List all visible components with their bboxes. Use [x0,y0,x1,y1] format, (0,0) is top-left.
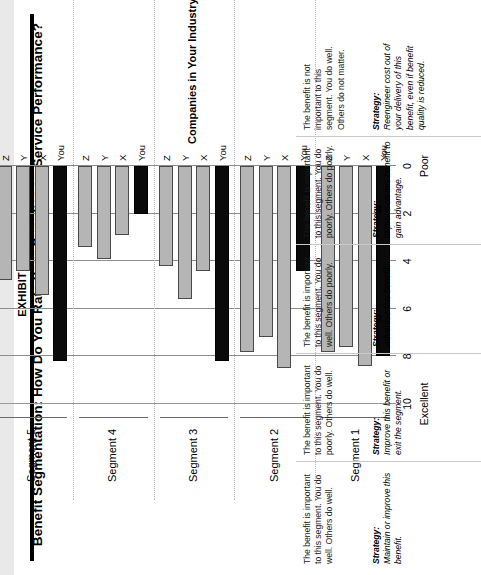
note-description-text: The benefit is important to this segment… [302,250,336,347]
note-description-text: The benefit is not important to this seg… [302,33,347,130]
note-description-text: The benefit is important to this segment… [302,359,336,456]
strategy-text: Reengineer cost out of your delivery of … [382,33,427,130]
strategy-label: Strategy: [371,418,381,455]
segment-note-strategy: Strategy:Improve this benefit or exit th… [362,359,405,456]
strategy-label: Strategy: [371,201,381,238]
note-separator [296,461,481,462]
note-separator [296,244,481,245]
segment-note-description: The benefit is important to this segment… [302,467,336,564]
strategy-text: Improve on this benefit to gain advantag… [382,142,404,239]
segment-note-description: The benefit is important to this segment… [302,359,336,456]
segment-note-strategy: Strategy:Reengineer cost out of your del… [362,33,427,130]
note-description-text: The benefit is important to this segment… [302,467,336,564]
segment-note-description: The benefit is not important to this seg… [302,33,347,130]
note-separator [296,353,481,354]
strategy-label: Strategy: [371,526,381,563]
strategy-label: Strategy: [371,309,381,346]
segment-note-description: The benefit is important to this segment… [302,250,336,347]
strategy-text: Maintain or improve this benefit. [382,467,404,564]
page-frame: EXHIBIT 8-4 Benefit Segmentation: How Do… [0,0,481,575]
note-separator [296,136,481,137]
segment-note-description: The benefit is important to this segment… [302,142,336,239]
segment-note-strategy: Strategy:Maintain or improve this benefi… [362,467,405,564]
strategy-label: Strategy: [371,92,381,129]
segment-notes-layer: The benefit is not important to this seg… [0,0,481,575]
segment-note-strategy: Strategy:Advertise this benefit. [362,250,393,347]
segment-note-strategy: Strategy:Improve on this benefit to gain… [362,142,405,239]
strategy-text: Advertise this benefit. [382,250,393,347]
note-description-text: The benefit is important to this segment… [302,142,336,239]
strategy-text: Improve this benefit or exit the segment… [382,359,404,456]
